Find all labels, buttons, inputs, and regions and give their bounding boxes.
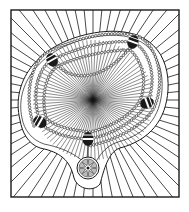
dark-bead — [83, 132, 94, 146]
necklace-illustration — [0, 0, 189, 212]
